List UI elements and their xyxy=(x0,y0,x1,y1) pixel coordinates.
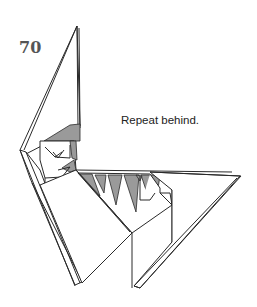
origami-fold-diagram xyxy=(0,0,257,307)
